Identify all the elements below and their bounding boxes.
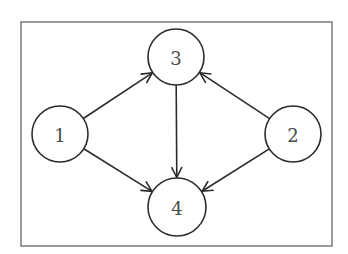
edges <box>83 73 269 192</box>
node-4: 4 <box>148 178 206 236</box>
edge-1-to-4-arrow <box>84 149 152 192</box>
node-1: 1 <box>32 106 88 162</box>
edge-3-to-4-arrow <box>176 85 177 178</box>
graph-diagram: 1234 <box>0 0 348 254</box>
edge-1-to-3-arrow <box>83 73 152 119</box>
node-2: 2 <box>265 106 321 162</box>
node-label: 3 <box>170 48 181 69</box>
node-label: 2 <box>287 125 298 146</box>
edge-2-to-3-arrow <box>200 73 270 119</box>
edge-2-to-4-arrow <box>202 149 269 191</box>
node-label: 4 <box>171 198 182 219</box>
node-label: 1 <box>54 125 65 146</box>
node-3: 3 <box>148 29 204 85</box>
